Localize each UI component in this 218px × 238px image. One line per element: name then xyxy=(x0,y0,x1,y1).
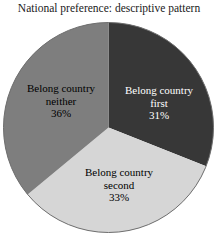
pie-chart-figure: { "chart_data": { "type": "pie", "title"… xyxy=(0,0,218,238)
pie-chart xyxy=(0,0,218,238)
